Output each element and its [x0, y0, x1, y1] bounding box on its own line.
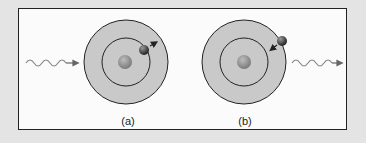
panel-b [202, 20, 340, 104]
incoming-photon-wave-icon [26, 60, 66, 66]
panel-a-label: (a) [121, 115, 134, 127]
electron-icon [139, 45, 149, 55]
outgoing-photon-wave-icon [292, 60, 332, 66]
panel-b-label: (b) [238, 115, 251, 127]
panel-a [26, 20, 168, 104]
nucleus-icon [237, 55, 251, 69]
nucleus-icon [118, 55, 132, 69]
electron-icon [277, 36, 287, 46]
atom-diagram [0, 0, 366, 143]
